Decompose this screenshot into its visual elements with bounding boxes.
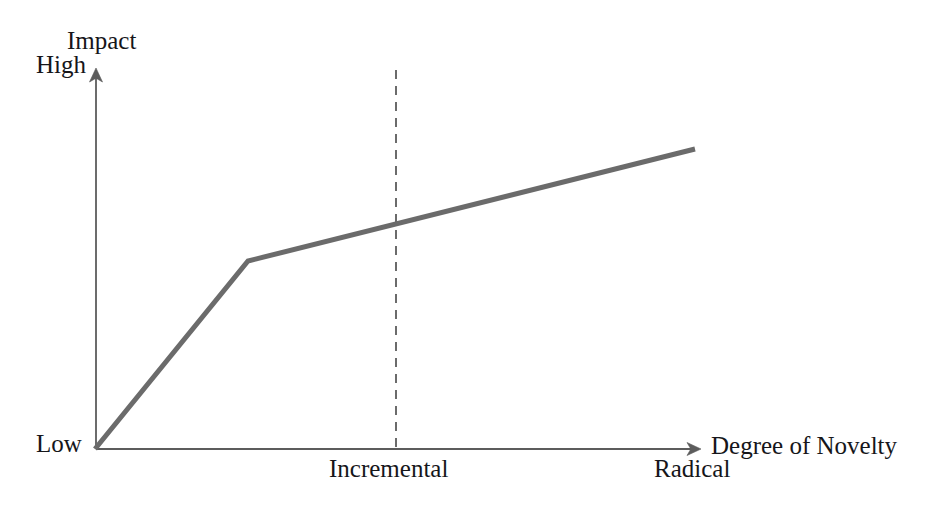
x-axis-tick-label-incremental: Incremental — [329, 456, 448, 481]
x-axis-title: Degree of Novelty — [711, 433, 897, 458]
chart-figure: Impact High Low Incremental Radical Degr… — [0, 0, 942, 513]
y-axis-title: Impact — [67, 28, 136, 53]
y-axis — [90, 68, 103, 449]
y-axis-tick-label-high: High — [36, 52, 86, 77]
x-axis-tick-label-radical: Radical — [654, 456, 730, 481]
x-axis — [96, 443, 701, 456]
y-axis-tick-label-low: Low — [36, 431, 82, 456]
